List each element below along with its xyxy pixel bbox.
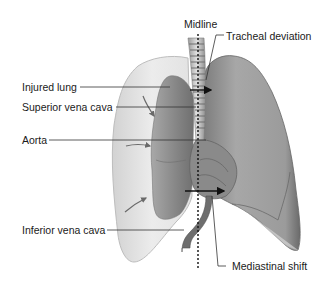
label-inferior-vena-cava: Inferior vena cava: [22, 224, 105, 236]
label-superior-vena-cava: Superior vena cava: [22, 101, 112, 113]
label-injured-lung: Injured lung: [22, 81, 77, 93]
thorax-illustration: [0, 0, 335, 285]
tension-pneumothorax-diagram: Midline Tracheal deviation Injured lung …: [0, 0, 335, 285]
label-aorta: Aorta: [22, 134, 47, 146]
injured-lung-shape: [151, 76, 194, 219]
label-mediastinal-shift: Mediastinal shift: [232, 260, 307, 272]
label-midline: Midline: [184, 18, 217, 30]
label-tracheal-deviation: Tracheal deviation: [226, 30, 311, 42]
